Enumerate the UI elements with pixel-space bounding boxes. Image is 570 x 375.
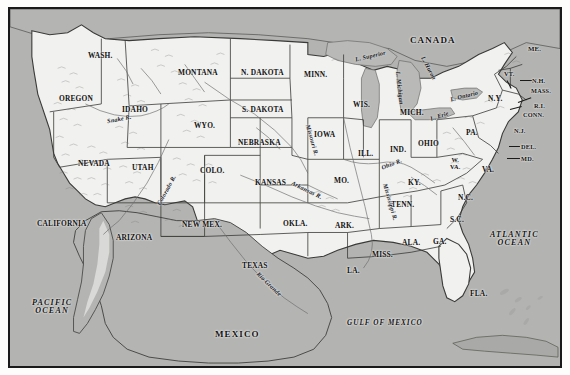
leader-line-delaware: [509, 146, 520, 147]
map-canvas: [10, 9, 560, 366]
map-frame: WASH.OREGONIDAHOMONTANAWYO.N. DAKOTAS. D…: [8, 7, 562, 368]
lake-michigan-shape: [361, 68, 379, 127]
map-vector-layer: [10, 9, 560, 366]
leader-line-new-hampshire: [520, 80, 532, 81]
us-map-figure: WASH.OREGONIDAHOMONTANAWYO.N. DAKOTAS. D…: [0, 0, 570, 375]
leader-line-maryland: [507, 158, 520, 159]
